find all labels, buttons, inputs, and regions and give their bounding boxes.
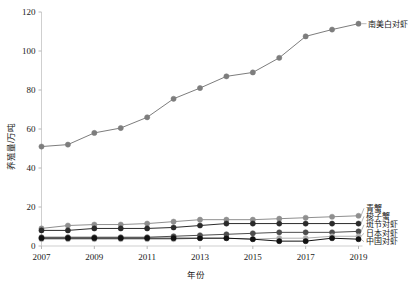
- data-point: [329, 214, 334, 219]
- x-tick-label: 2015: [244, 252, 263, 262]
- series-label-3: 斑节对虾: [366, 219, 398, 229]
- x-tick-label: 2017: [297, 252, 316, 262]
- data-point: [356, 213, 361, 218]
- axes-group: [39, 12, 363, 249]
- data-point: [277, 239, 282, 244]
- data-point: [250, 231, 255, 236]
- data-point: [277, 55, 282, 60]
- data-point: [356, 229, 361, 234]
- data-point: [171, 236, 176, 241]
- x-tick-label: 2019: [350, 252, 369, 262]
- x-tick-label: 2013: [191, 252, 210, 262]
- data-point: [303, 215, 308, 220]
- series-2: [39, 221, 361, 233]
- series-label-4: 日本对虾: [366, 228, 398, 238]
- data-point: [329, 27, 334, 32]
- data-point: [250, 221, 255, 226]
- data-point: [92, 236, 97, 241]
- data-point: [303, 34, 308, 39]
- data-series-group: [39, 21, 361, 244]
- y-tick-label: 20: [27, 202, 37, 212]
- data-point: [356, 221, 361, 226]
- y-tick-label: 80: [27, 85, 37, 95]
- data-point: [39, 236, 44, 241]
- data-point: [303, 230, 308, 235]
- y-axis-title: 养殖量/万吨: [6, 123, 16, 170]
- data-point: [356, 237, 361, 242]
- data-point: [303, 239, 308, 244]
- data-point: [277, 230, 282, 235]
- data-point: [171, 96, 176, 101]
- data-point: [65, 223, 70, 228]
- data-point: [356, 21, 361, 26]
- x-axis-title: 年份: [187, 270, 205, 280]
- data-point: [39, 144, 44, 149]
- series-leader: [361, 225, 364, 232]
- data-point: [145, 236, 150, 241]
- series-0: [39, 21, 361, 149]
- y-tick-label: 0: [31, 241, 36, 251]
- x-tick-label: 2007: [33, 252, 52, 262]
- data-point: [171, 225, 176, 230]
- series-line: [42, 24, 359, 147]
- data-point: [197, 85, 202, 90]
- line-chart-figure: 020406080100120 200720092011201320152017…: [0, 0, 413, 288]
- data-point: [197, 236, 202, 241]
- data-point: [197, 223, 202, 228]
- data-point: [224, 236, 229, 241]
- data-point: [118, 236, 123, 241]
- data-point: [171, 219, 176, 224]
- data-point: [329, 221, 334, 226]
- series-inline-labels: 南美白对虾青蟹梭子蟹斑节对虾日本对虾中国对虾: [366, 19, 408, 246]
- data-point: [65, 228, 70, 233]
- data-point: [197, 217, 202, 222]
- y-tick-label: 120: [22, 7, 36, 17]
- data-point: [118, 226, 123, 231]
- chart-canvas: 020406080100120 200720092011201320152017…: [0, 0, 413, 288]
- data-point: [224, 221, 229, 226]
- data-point: [65, 142, 70, 147]
- data-point: [250, 237, 255, 242]
- data-point: [145, 221, 150, 226]
- data-point: [118, 125, 123, 130]
- series-leader: [361, 239, 364, 242]
- y-tick-label: 100: [22, 46, 36, 56]
- series-label-5: 中国对虾: [366, 236, 398, 246]
- data-point: [65, 236, 70, 241]
- data-point: [303, 221, 308, 226]
- series-label-2: 梭子蟹: [366, 211, 390, 221]
- x-tick-label: 2011: [138, 252, 156, 262]
- x-axis-tick-labels: 2007200920112013201520172019: [33, 252, 369, 262]
- data-point: [277, 221, 282, 226]
- y-axis-tick-labels: 020406080100120: [22, 7, 36, 251]
- series-label-0: 南美白对虾: [368, 19, 408, 29]
- data-point: [92, 130, 97, 135]
- data-point: [250, 70, 255, 75]
- data-point: [145, 226, 150, 231]
- data-point: [92, 226, 97, 231]
- series-leader: [361, 216, 364, 223]
- x-tick-label: 2009: [85, 252, 104, 262]
- data-point: [224, 74, 229, 79]
- data-point: [277, 216, 282, 221]
- data-point: [145, 115, 150, 120]
- data-point: [39, 228, 44, 233]
- data-point: [329, 236, 334, 241]
- series-leader: [361, 208, 364, 215]
- y-tick-label: 40: [27, 163, 37, 173]
- y-tick-label: 60: [27, 124, 37, 134]
- series-leader: [361, 233, 364, 236]
